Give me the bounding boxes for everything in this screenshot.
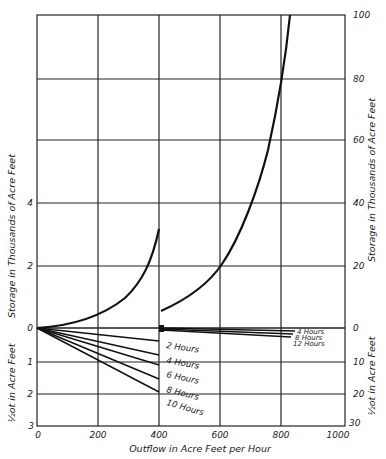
right-tick-100: 100 [353, 10, 370, 20]
left-tick-lower-1: 1 [27, 357, 33, 367]
left-lower-axis-title: ½ot in Acre Feet [6, 342, 17, 422]
label-2-hours: 2 Hours [166, 340, 201, 355]
x-tick-1000: 1000 [327, 430, 350, 440]
x-tick-0: 0 [35, 430, 41, 440]
right-lower-axis-title: ½ot in Acre Feet [366, 335, 377, 415]
right-tick-20: 20 [353, 261, 365, 271]
right-line-labels: 4 Hours 8 Hours 12 Hours [293, 328, 325, 348]
left-upper-axis-title: Storage in Thousands of Acre Feet [6, 153, 17, 318]
right-tick-80: 80 [353, 74, 365, 84]
x-axis-title: Outflow in Acre Feet per Hour [129, 443, 272, 454]
x-tick-200: 200 [89, 430, 106, 440]
x-tick-800: 800 [272, 430, 289, 440]
right-tick-60: 60 [353, 135, 365, 145]
label-4-hours: 4 Hours [166, 355, 201, 371]
left-tick-4: 4 [27, 198, 33, 208]
storage-curves [37, 15, 290, 328]
x-tick-400: 400 [150, 430, 167, 440]
x-tick-600: 600 [211, 430, 228, 440]
left-ticks: 0 2 4 1 2 3 [27, 198, 34, 431]
right-tick-0: 0 [353, 323, 359, 333]
right-upper-axis-title: Storage in Thousands of Acre Feet [366, 97, 377, 262]
right-tick-40: 40 [353, 198, 365, 208]
left-tick-2: 2 [27, 261, 33, 271]
right-tick-lower-30: 30 [349, 418, 361, 428]
half-ot-lines-right [159, 325, 295, 337]
label-10-hours: 10 Hours [165, 397, 205, 417]
left-tick-lower-2: 2 [27, 389, 33, 399]
junction-mark [159, 325, 164, 332]
right-tick-lower-20: 20 [353, 389, 365, 399]
chart-container: 2 Hours 4 Hours 6 Hours 8 Hours 10 Hours… [0, 0, 386, 459]
right-tick-lower-10: 10 [353, 357, 365, 367]
x-ticks: 0 200 400 600 800 1000 [35, 430, 350, 440]
left-tick-0: 0 [27, 323, 33, 333]
label-6-hours: 6 Hours [166, 369, 201, 386]
label-12-hours-right: 12 Hours [293, 340, 325, 348]
left-line-labels: 2 Hours 4 Hours 6 Hours 8 Hours 10 Hours [165, 340, 205, 418]
storage-outflow-chart: 2 Hours 4 Hours 6 Hours 8 Hours 10 Hours… [0, 0, 386, 459]
left-tick-lower-3: 3 [28, 421, 34, 431]
